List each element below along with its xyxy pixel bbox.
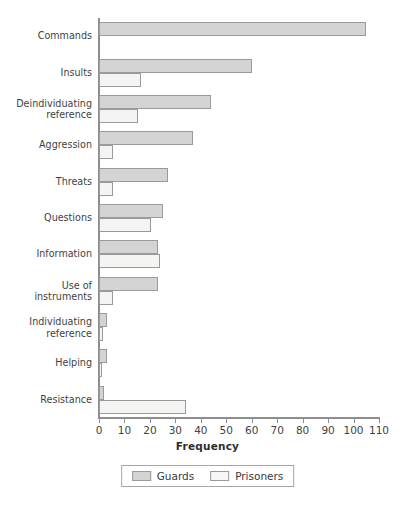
- category-label: Questions: [0, 212, 92, 224]
- legend-label: Prisoners: [235, 470, 283, 482]
- x-tick: [150, 418, 151, 423]
- category-label: Aggression: [0, 140, 92, 152]
- x-tick-label: 40: [194, 424, 207, 436]
- x-tick: [328, 418, 329, 423]
- legend-item-prisoners[interactable]: Prisoners: [210, 470, 283, 482]
- x-tick: [124, 418, 125, 423]
- bar-prisoners: [99, 363, 102, 377]
- category-row: Questions: [99, 200, 379, 236]
- bar-guards: [99, 131, 193, 145]
- bar-prisoners: [99, 182, 113, 196]
- x-tick: [175, 418, 176, 423]
- bar-prisoners: [99, 254, 160, 268]
- category-row: Aggression: [99, 127, 379, 163]
- legend-label: Guards: [157, 470, 195, 482]
- bar-prisoners: [99, 400, 186, 414]
- bar-prisoners: [99, 218, 151, 232]
- category-row: Deindividuating reference: [99, 91, 379, 127]
- x-tick-label: 100: [344, 424, 364, 436]
- category-label: Insults: [0, 67, 92, 79]
- x-tick: [252, 418, 253, 423]
- bar-prisoners: [99, 73, 141, 87]
- x-tick-label: 50: [220, 424, 233, 436]
- bar-guards: [99, 386, 104, 400]
- x-tick-label: 30: [169, 424, 182, 436]
- category-label: Helping: [0, 358, 92, 370]
- category-label: Commands: [0, 30, 92, 42]
- x-tick-label: 60: [245, 424, 258, 436]
- bar-guards: [99, 313, 107, 327]
- category-label: Threats: [0, 176, 92, 188]
- category-row: Individuating reference: [99, 309, 379, 345]
- x-tick-label: 0: [96, 424, 103, 436]
- category-row: Use of instruments: [99, 273, 379, 309]
- x-tick: [354, 418, 355, 423]
- x-tick: [379, 418, 380, 423]
- bar-prisoners: [99, 145, 113, 159]
- x-tick: [277, 418, 278, 423]
- category-row: Resistance: [99, 382, 379, 418]
- category-label: Use of instruments: [0, 279, 92, 302]
- bar-prisoners: [99, 327, 103, 341]
- bar-guards: [99, 95, 211, 109]
- x-tick: [201, 418, 202, 423]
- bar-guards: [99, 204, 163, 218]
- x-tick: [303, 418, 304, 423]
- category-row: Information: [99, 236, 379, 272]
- x-axis-title: Frequency: [0, 440, 415, 452]
- bar-guards: [99, 59, 252, 73]
- legend-swatch-icon: [210, 471, 229, 481]
- x-tick: [226, 418, 227, 423]
- bar-guards: [99, 22, 366, 36]
- category-row: Commands: [99, 18, 379, 54]
- x-tick-label: 80: [296, 424, 309, 436]
- x-tick-label: 70: [270, 424, 283, 436]
- bar-prisoners: [99, 109, 138, 123]
- bar-guards: [99, 349, 107, 363]
- bar-chart: CommandsInsultsDeindividuating reference…: [0, 0, 415, 510]
- x-tick-label: 90: [321, 424, 334, 436]
- bar-guards: [99, 168, 168, 182]
- category-label: Individuating reference: [0, 316, 92, 339]
- x-tick: [99, 418, 100, 423]
- category-row: Helping: [99, 345, 379, 381]
- bar-guards: [99, 277, 158, 291]
- category-label: Resistance: [0, 394, 92, 406]
- legend-item-guards[interactable]: Guards: [132, 470, 195, 482]
- plot-area: CommandsInsultsDeindividuating reference…: [99, 18, 379, 418]
- x-tick-label: 110: [369, 424, 389, 436]
- x-tick-label: 10: [118, 424, 131, 436]
- x-tick-label: 20: [143, 424, 156, 436]
- category-label: Deindividuating reference: [0, 97, 92, 120]
- category-label: Information: [0, 249, 92, 261]
- legend-swatch-icon: [132, 471, 151, 481]
- bar-guards: [99, 240, 158, 254]
- category-row: Insults: [99, 54, 379, 90]
- bar-prisoners: [99, 291, 113, 305]
- chart-legend: GuardsPrisoners: [121, 465, 295, 487]
- category-row: Threats: [99, 163, 379, 199]
